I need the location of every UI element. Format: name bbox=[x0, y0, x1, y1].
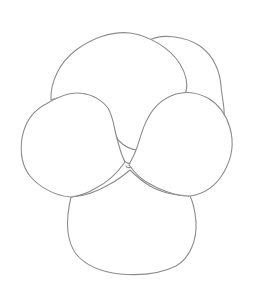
flower-drawing bbox=[0, 0, 257, 293]
pansy-outline-illustration bbox=[0, 0, 257, 293]
